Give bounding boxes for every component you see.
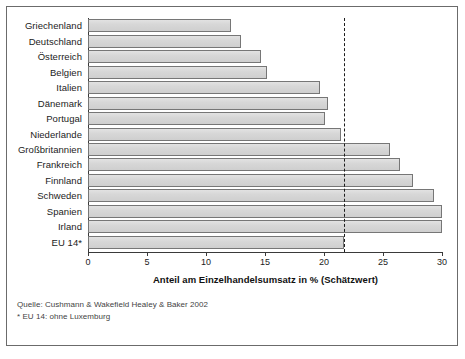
bar-rect: [88, 50, 261, 63]
bar-rect: [88, 128, 341, 141]
category-label: Großbritannien: [18, 144, 82, 155]
x-tick-label: 25: [378, 257, 388, 267]
chart-figure: GriechenlandDeutschlandÖsterreichBelgien…: [0, 0, 465, 359]
bar-rect: [88, 35, 241, 48]
bar-rect: [88, 66, 267, 79]
category-label: Italien: [56, 82, 82, 93]
bar-rect: [88, 81, 320, 94]
bar-rect: [88, 205, 442, 218]
category-label: Irland: [58, 221, 82, 232]
source-note: Quelle: Cushmann & Wakefield Healey & Ba…: [17, 299, 208, 311]
x-tick: [265, 252, 266, 256]
bar-rect: [88, 112, 325, 125]
x-tick-label: 0: [85, 257, 90, 267]
reference-line-eu14: [344, 18, 345, 252]
category-label: Griechenland: [25, 20, 82, 31]
category-axis-labels: GriechenlandDeutschlandÖsterreichBelgien…: [14, 18, 82, 250]
category-label: Deutschland: [29, 36, 82, 47]
x-tick: [324, 252, 325, 256]
bar-rect: [88, 220, 442, 233]
category-label: Schweden: [37, 190, 82, 201]
x-tick: [442, 252, 443, 256]
footnotes: Quelle: Cushmann & Wakefield Healey & Ba…: [17, 299, 208, 323]
bar-rect: [88, 97, 328, 110]
category-label: Belgien: [50, 67, 82, 78]
category-label: Portugal: [46, 113, 82, 124]
category-label: Österreich: [38, 51, 82, 62]
bar-rect: [88, 19, 231, 32]
x-tick: [147, 252, 148, 256]
category-label: Niederlande: [30, 129, 82, 140]
x-tick: [88, 252, 89, 256]
bar-rect: [88, 189, 434, 202]
category-label: Dänemark: [38, 98, 82, 109]
category-label: Frankreich: [37, 159, 82, 170]
category-label: Spanien: [47, 206, 82, 217]
category-label: EU 14*: [52, 237, 82, 248]
eu14-note: * EU 14: ohne Luxemburg: [17, 311, 208, 323]
x-tick-label: 15: [260, 257, 270, 267]
category-label: Finnland: [45, 175, 82, 186]
x-tick-label: 20: [319, 257, 329, 267]
bar-rect: [88, 158, 400, 171]
x-axis-title: Anteil am Einzelhandelsumsatz in % (Schä…: [88, 274, 443, 285]
plot-area: [88, 18, 442, 250]
x-tick-label: 10: [201, 257, 211, 267]
x-tick: [206, 252, 207, 256]
bar-rect: [88, 174, 413, 187]
bar-rect: [88, 236, 344, 249]
x-tick: [383, 252, 384, 256]
x-tick-label: 5: [144, 257, 149, 267]
x-tick-label: 30: [437, 257, 447, 267]
